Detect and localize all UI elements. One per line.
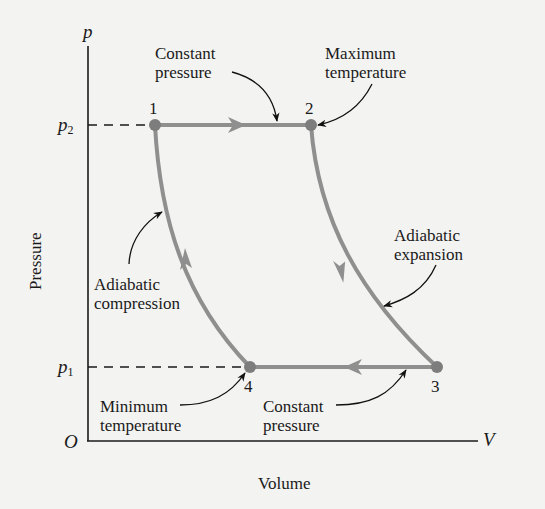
point-3-label: 3: [431, 378, 440, 396]
point-4: [244, 361, 256, 373]
annotation-adiabatic-expansion: Adiabatic expansion: [394, 226, 463, 264]
process-4-1: [155, 125, 250, 367]
annotation-maximum-temperature: Maximum temperature: [325, 44, 406, 82]
annotation-bottom-constant-pressure: Constant pressure: [263, 397, 323, 435]
point-1-label: 1: [149, 100, 158, 118]
arrow-bottom-constant-pressure: [336, 370, 406, 405]
x-axis-symbol: V: [483, 430, 495, 449]
annotation-top-constant-pressure: Constant pressure: [155, 44, 215, 82]
x-axis-title: Volume: [258, 474, 311, 494]
arrow-down-icon: [333, 259, 347, 283]
point-3: [431, 361, 443, 373]
point-2-label: 2: [305, 100, 314, 118]
arrow-minimum-temperature: [180, 373, 245, 405]
annotation-adiabatic-compression: Adiabatic compression: [94, 275, 180, 313]
arrow-adiabatic-compression: [129, 212, 162, 264]
direction-arrows: [180, 117, 362, 375]
p2-tick-label: p2: [58, 115, 74, 140]
y-axis-symbol: p: [83, 22, 93, 41]
point-4-label: 4: [244, 378, 253, 396]
arrow-adiabatic-expansion: [384, 265, 436, 306]
point-2: [305, 119, 317, 131]
arrow-top-constant-pressure: [232, 72, 277, 121]
y-axis-title: Pressure: [26, 232, 46, 290]
origin-label: O: [64, 432, 78, 451]
p1-tick-label: p1: [58, 357, 74, 382]
annotation-minimum-temperature: Minimum temperature: [100, 397, 181, 435]
point-1: [149, 119, 161, 131]
arrow-maximum-temperature: [318, 84, 372, 125]
